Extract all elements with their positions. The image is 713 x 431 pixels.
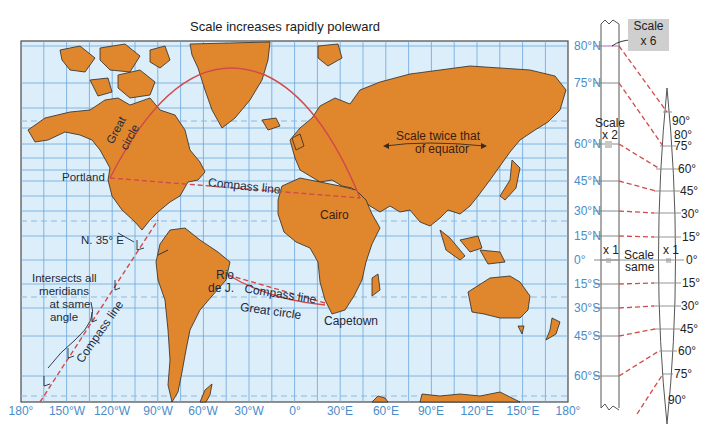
lat-label-45s: 45°S [574,329,600,343]
side-strip [601,20,619,410]
lon-label-90w: 90°W [143,404,172,418]
scale-x6-box: Scale x 6 [628,19,669,51]
lon-label-30w: 30°W [234,404,263,418]
lon-label-60w: 60°W [188,404,217,418]
lat-label-0: 0° [574,253,585,267]
lat-label-30n: 30°N [574,204,601,218]
globe-label-0: 0° [686,254,697,267]
globe-label-45n: 45° [680,185,698,198]
lon-label-150w: 150°W [49,404,85,418]
lat-label-30s: 30°S [574,301,600,315]
globe-label-60n: 60° [678,163,696,176]
globe-label-60s: 60° [678,345,696,358]
lon-label-180e: 180° [556,404,581,418]
globe-label-75n: 75° [674,140,692,153]
x1-right: x 1 [663,244,679,257]
lon-label-180w: 180° [9,404,34,418]
lon-label-90e: 90°E [418,404,444,418]
label-intersects-3: at same [32,298,108,311]
globe-label-15s: 15° [682,277,700,290]
lon-label-30e: 30°E [327,404,353,418]
label-cairo: Cairo [320,209,349,222]
diagram-title: Scale increases rapidly poleward [190,19,380,34]
label-intersects-1: Intersects all [32,272,96,285]
label-intersects-4: angle [32,311,96,324]
x1-left: x 1 [603,244,619,257]
label-intersects-2: meridians [32,285,96,298]
lon-label-0: 0° [289,404,300,418]
scale-x6-line1: Scale [628,19,669,34]
lat-label-15n: 15°N [574,229,601,243]
lon-label-120e: 120°E [461,404,494,418]
lat-label-80n: 80°N [574,39,601,53]
label-scale-twice-2: of equator [415,143,469,156]
mercator-diagram [0,0,713,431]
globe-label-15n: 15° [682,231,700,244]
label-rio-2: de J. [208,282,234,295]
lat-label-15s: 15°S [574,277,600,291]
globe-label-45s: 45° [680,323,698,336]
label-portland: Portland [62,171,105,184]
label-n35e: N. 35° E [81,234,124,247]
scale-x2-line2: x 2 [602,129,618,142]
scale-same-line2: same [625,261,654,274]
lat-label-75n: 75°N [574,76,601,90]
lon-label-60e: 60°E [373,404,399,418]
globe-label-75s: 75° [674,368,692,381]
lat-label-60s: 60°S [574,369,600,383]
globe-label-90s: 90° [668,394,686,407]
globe-label-90n: 90° [672,115,690,128]
globe-label-30n: 30° [681,208,699,221]
lat-label-45n: 45°N [574,174,601,188]
lat-label-60n: 60°N [574,137,601,151]
label-capetown: Capetown [324,315,378,328]
scale-x6-line2: x 6 [628,34,669,49]
lon-label-120w: 120°W [94,404,130,418]
projection-connectors [619,46,667,414]
lon-label-150e: 150°E [507,404,540,418]
globe-label-30s: 30° [681,300,699,313]
